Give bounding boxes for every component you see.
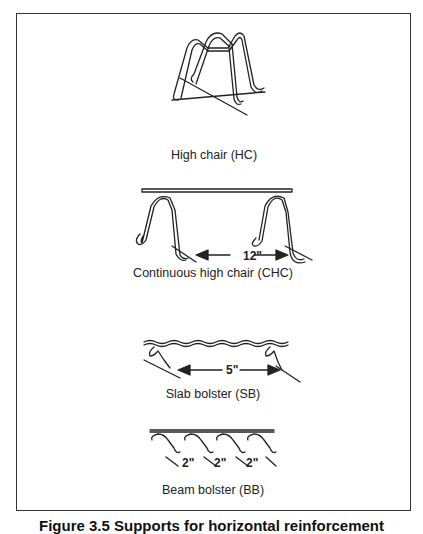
dimension-2in-2: 2" [214, 456, 226, 470]
dimension-5in: 5" [226, 363, 238, 377]
high-chair-drawing [172, 33, 265, 115]
dimension-2in-1: 2" [182, 456, 194, 470]
label-high-chair: High chair (HC) [171, 148, 257, 162]
label-continuous-high-chair: Continuous high chair (CHC) [133, 266, 293, 280]
label-beam-bolster: Beam bolster (BB) [162, 483, 264, 497]
label-slab-bolster: Slab bolster (SB) [166, 387, 260, 401]
figure-caption: Figure 3.5 Supports for horizontal reinf… [39, 517, 384, 534]
dimension-2in-3: 2" [246, 456, 258, 470]
dimension-12in: 12" [243, 249, 262, 263]
slab-bolster-drawing [144, 341, 300, 383]
continuous-high-chair-drawing [136, 189, 312, 263]
